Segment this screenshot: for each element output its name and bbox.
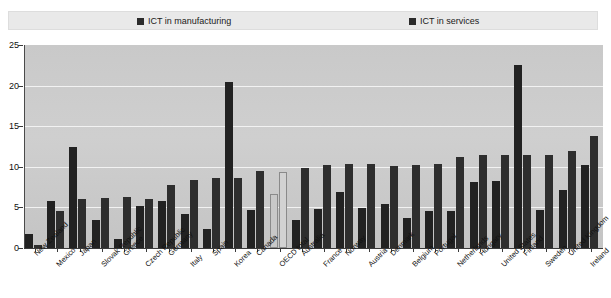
x-axis-tick-label: Korea [233,249,253,269]
bar-group[interactable] [246,45,268,248]
bar-group[interactable] [335,45,357,248]
bar-group[interactable] [291,45,313,248]
bar-ict-in-manufacturing[interactable] [225,82,233,248]
x-axis-tick-labels: New ZealandMexicoJapanSlovak RepublicGre… [0,252,606,298]
y-axis-tick-mark [18,126,23,127]
y-axis-tick-mark [18,86,23,87]
y-axis-tick-mark [18,45,23,46]
y-axis: 0510152025 [0,40,22,255]
bar-ict-in-services[interactable] [568,151,576,248]
bar-group[interactable] [91,45,113,248]
bar-group[interactable] [469,45,491,248]
bar-group[interactable] [135,45,157,248]
bar-group[interactable] [446,45,468,248]
bar-group[interactable] [224,45,246,248]
bar-ict-in-manufacturing[interactable] [25,234,33,248]
bar-ict-in-services[interactable] [145,199,153,248]
bar-group[interactable] [380,45,402,248]
bar-group[interactable] [46,45,68,248]
bar-ict-in-services[interactable] [390,166,398,248]
bar-group[interactable] [269,45,291,248]
bar-ict-in-manufacturing[interactable] [203,229,211,248]
bar-group[interactable] [535,45,557,248]
bar-ict-in-services[interactable] [78,199,86,248]
y-axis-tick-mark [18,248,23,249]
bar-ict-in-services[interactable] [279,172,287,248]
bar-group[interactable] [513,45,535,248]
bar-ict-in-services[interactable] [345,164,353,248]
bar-group[interactable] [313,45,335,248]
bar-ict-in-services[interactable] [256,171,264,248]
x-axis-tick-label: Italy [189,253,204,268]
bar-ict-in-manufacturing[interactable] [514,65,522,248]
square-marker-icon [409,18,416,25]
chart-legend: ICT in manufacturing ICT in services [8,11,598,30]
bar-group[interactable] [68,45,90,248]
bar-ict-in-services[interactable] [212,178,220,248]
y-axis-tick-mark [18,167,23,168]
bar-group[interactable] [402,45,424,248]
legend-item-label: ICT in manufacturing [148,16,231,26]
plot-region: 0510152025 [0,40,606,255]
bar-group[interactable] [558,45,580,248]
bar-group[interactable] [157,45,179,248]
bar-group[interactable] [180,45,202,248]
bar-ict-in-services[interactable] [545,155,553,248]
bar-ict-in-services[interactable] [501,155,509,248]
bar-group[interactable] [113,45,135,248]
bar-ict-in-manufacturing[interactable] [336,192,344,248]
bar-ict-in-services[interactable] [456,157,464,248]
bar-ict-in-services[interactable] [234,178,242,248]
bar-group[interactable] [24,45,46,248]
bar-series-container [24,45,602,248]
bar-group[interactable] [357,45,379,248]
bar-ict-in-services[interactable] [434,164,442,248]
legend-item-ict-in-manufacturing[interactable]: ICT in manufacturing [137,14,231,28]
bar-group[interactable] [491,45,513,248]
bar-ict-in-manufacturing[interactable] [559,190,567,248]
bar-ict-in-manufacturing[interactable] [247,210,255,248]
bar-ict-in-services[interactable] [367,164,375,248]
legend-item-ict-in-services[interactable]: ICT in services [409,14,479,28]
bar-ict-in-manufacturing[interactable] [69,147,77,249]
bar-ict-in-services[interactable] [101,198,109,248]
bar-ict-in-manufacturing[interactable] [381,204,389,248]
bar-group[interactable] [202,45,224,248]
bar-group[interactable] [424,45,446,248]
bar-ict-in-manufacturing[interactable] [470,182,478,248]
legend-item-label: ICT in services [420,16,479,26]
y-axis-tick-mark [18,207,23,208]
square-marker-icon [137,18,144,25]
